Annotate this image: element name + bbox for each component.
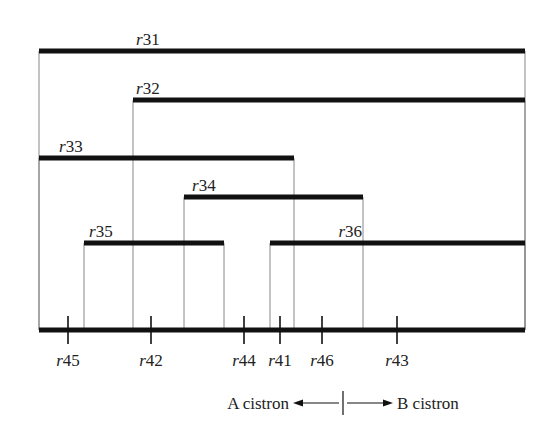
deletion-label-r34: r34 xyxy=(192,176,216,195)
mutation-label-r41: r41 xyxy=(268,351,292,370)
mutation-label-r45: r45 xyxy=(56,351,80,370)
cistron-legend: A cistron B cistron xyxy=(227,391,459,415)
deletion-label-r35: r35 xyxy=(89,222,113,241)
point-mutations: r45r42r44r41r46r43 xyxy=(56,316,409,370)
left-arrowhead-icon xyxy=(293,400,303,407)
deletion-label-r33: r33 xyxy=(59,137,83,156)
mutation-label-r43: r43 xyxy=(385,351,409,370)
deletion-boundary-lines xyxy=(39,51,525,330)
mutation-label-r42: r42 xyxy=(139,351,163,370)
deletion-bars: r31r32r33r34r35r36 xyxy=(39,30,525,243)
deletion-label-r32: r32 xyxy=(136,79,160,98)
a-cistron-label: A cistron xyxy=(227,394,289,413)
right-arrowhead-icon xyxy=(383,400,393,407)
mutation-label-r46: r46 xyxy=(310,351,334,370)
mutation-label-r44: r44 xyxy=(232,351,256,370)
b-cistron-label: B cistron xyxy=(397,394,459,413)
deletion-map-diagram: r31r32r33r34r35r36 r45r42r44r41r46r43 A … xyxy=(0,0,559,427)
deletion-label-r36: r36 xyxy=(338,222,362,241)
deletion-label-r31: r31 xyxy=(136,30,160,49)
